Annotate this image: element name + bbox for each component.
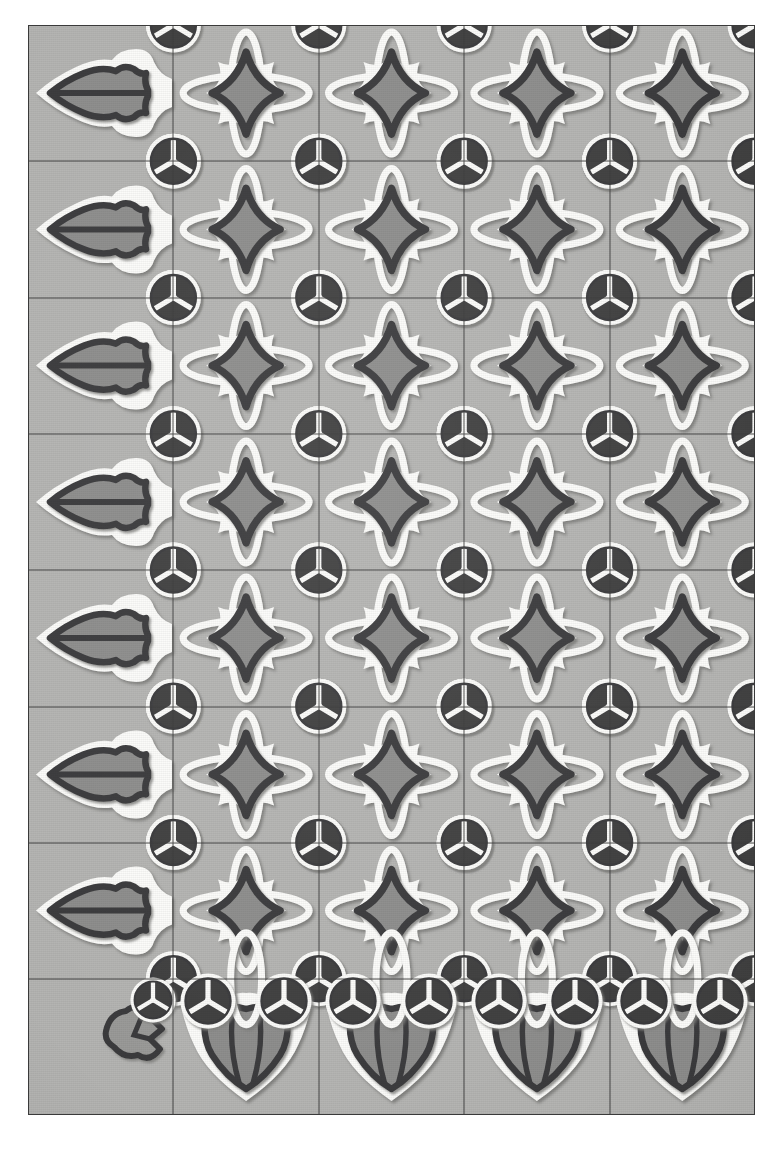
tile-field — [28, 25, 755, 1115]
plate-page: Glazed tile pattern plate Photographic p… — [0, 0, 780, 1150]
tile-pattern-artwork — [28, 25, 755, 1115]
